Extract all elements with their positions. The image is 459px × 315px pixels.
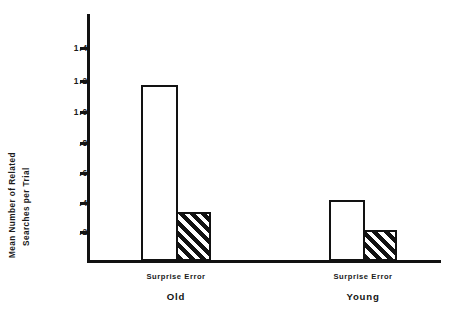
y-axis-title-line-2: Searches per Trial [22, 167, 31, 246]
y-tick-label-0.2: .2 [54, 227, 88, 237]
y-tick-label-1.0: 1.0 [54, 107, 88, 117]
y-tick-label-1.2: 1.2 [54, 76, 88, 86]
y-tick-label-0.8: .8 [54, 138, 88, 148]
bar-chart: Mean Number of Related Searches per Tria… [0, 0, 459, 315]
group-label-young: Young [346, 291, 379, 302]
bar-young-surprise [329, 200, 365, 261]
bar-old-surprise [141, 85, 178, 261]
y-axis-title: Mean Number of Related Searches per Tria… [0, 60, 46, 260]
y-tick-label-0.4: .4 [54, 198, 88, 208]
condition-labels-old: Surprise Error [146, 272, 205, 281]
condition-labels-young: Surprise Error [333, 272, 392, 281]
y-axis-title-line-1: Mean Number of Related [8, 152, 17, 258]
bar-young-error [363, 230, 397, 261]
y-tick-label-0.6: .6 [54, 168, 88, 178]
bar-old-error [176, 212, 211, 261]
y-tick-label-1.4: 1.4 [54, 43, 88, 53]
group-label-old: Old [167, 291, 185, 302]
